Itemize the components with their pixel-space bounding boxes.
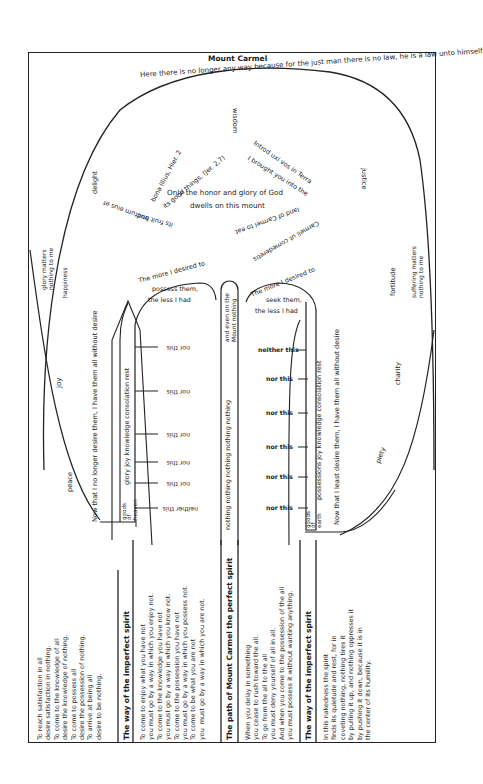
bottom-col4-text: In this nakedness the spirit finds its q…: [322, 609, 372, 740]
left-branch-2: nor this: [166, 481, 190, 487]
right-branch-5: nor this: [266, 474, 293, 480]
right-branch-6: nor this: [266, 505, 293, 511]
bottom-col1-text: To reach satisfaction in all desire sati…: [36, 634, 103, 740]
left-arch-line3: the less I had: [148, 297, 191, 303]
virtue-glory-matters: glory matters nothing to me: [40, 248, 54, 290]
virtue-charity: charity: [395, 362, 402, 385]
virtue-joy: joy: [56, 378, 63, 388]
center-line2: dwells on this mount: [190, 202, 265, 209]
middle-path-text: nothing nothing nothing nothing nothing: [225, 400, 231, 530]
bottom-col4-header: The way of the imperfect spirit: [304, 611, 313, 740]
diagram-title: Mount Carmel: [208, 55, 267, 63]
bottom-col3-header: The path of Mount Carmel the perfect spi…: [225, 558, 234, 740]
virtue-happiness: happiness: [62, 267, 68, 298]
right-branch-2: nor this: [266, 376, 293, 382]
middle-top-text: and even on the Mount nothing: [224, 293, 237, 342]
right-branch-1: neither this: [258, 347, 299, 353]
right-branch-4: nor this: [266, 444, 293, 450]
left-branch-1: neither this: [163, 506, 198, 512]
left-arch-line2: possess them,: [152, 286, 198, 292]
bottom-col3-text: When you delay in something you cease to…: [244, 587, 294, 740]
right-column-text: Now that I least desire them, I have the…: [334, 329, 341, 525]
virtue-wisdom: wisdom: [231, 108, 238, 133]
virtue-fortitude: fortitude: [390, 268, 397, 297]
left-branch-5: nor this: [166, 389, 190, 395]
right-goods-list: possessions joy knowledge consolation re…: [316, 361, 322, 500]
bottom-col2-text: To come to enjoy what you have not you m…: [139, 585, 206, 740]
left-branch-3: nor this: [166, 460, 190, 466]
left-goods-label: goods of heaven: [122, 499, 138, 520]
right-arch-line2: seek them,: [266, 297, 302, 303]
right-arch-line3: the less I had: [255, 308, 298, 314]
left-branch-6: nor this: [166, 345, 190, 351]
virtue-suffering-matters: suffering matters nothing to me: [410, 246, 424, 298]
virtue-delight: delight: [92, 171, 99, 194]
left-column-text: Now that I no longer desire them, I have…: [92, 310, 99, 522]
right-goods-label: goods of earth: [306, 511, 322, 528]
left-branch-4: nor this: [166, 432, 190, 438]
virtue-peace: peace: [67, 472, 74, 492]
virtue-justice: justice: [360, 168, 367, 190]
left-goods-list: glory joy knowledge consolation rest: [124, 368, 130, 485]
right-branch-3: nor this: [266, 410, 293, 416]
bottom-col2-header: The way of the imperfect spirit: [122, 611, 131, 740]
